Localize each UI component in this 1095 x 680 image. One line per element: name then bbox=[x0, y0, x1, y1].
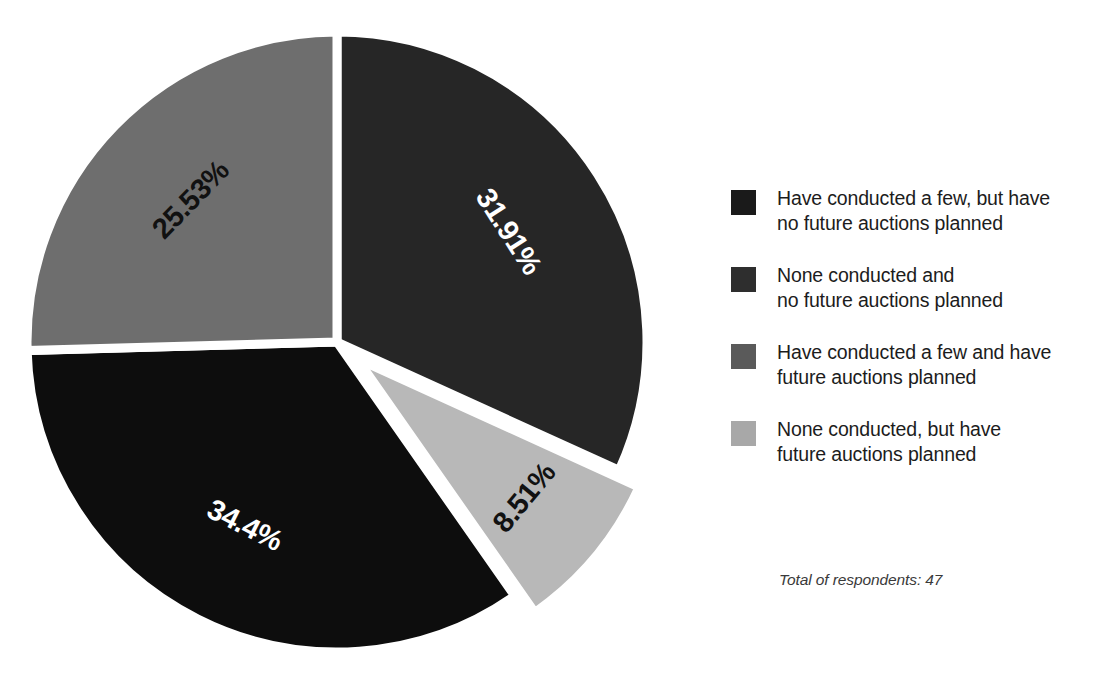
legend-item-label: Have conducted a few and have future auc… bbox=[777, 340, 1051, 390]
legend-item-label: None conducted and no future auctions pl… bbox=[777, 263, 1003, 313]
legend-item[interactable]: Have conducted a few, but have no future… bbox=[731, 186, 1071, 236]
pie-chart-figure: 31.91%8.51%34.4%25.53% Have conducted a … bbox=[0, 0, 1095, 680]
legend-color-swatch bbox=[731, 344, 756, 369]
legend-item[interactable]: None conducted and no future auctions pl… bbox=[731, 263, 1071, 313]
total-respondents-note: Total of respondents: 47 bbox=[779, 571, 942, 589]
legend-item-label: None conducted, but have future auctions… bbox=[777, 417, 1001, 467]
pie-chart-svg: 31.91%8.51%34.4%25.53% bbox=[0, 0, 700, 680]
legend-item-label: Have conducted a few, but have no future… bbox=[777, 186, 1050, 236]
legend-item[interactable]: Have conducted a few and have future auc… bbox=[731, 340, 1071, 390]
legend-color-swatch bbox=[731, 190, 756, 215]
legend-item[interactable]: None conducted, but have future auctions… bbox=[731, 417, 1071, 467]
pie-chart-plot-area: 31.91%8.51%34.4%25.53% bbox=[0, 0, 700, 680]
chart-legend: Have conducted a few, but have no future… bbox=[731, 186, 1071, 494]
legend-color-swatch bbox=[731, 421, 756, 446]
pie-slices-group bbox=[27, 32, 647, 652]
legend-color-swatch bbox=[731, 267, 756, 292]
